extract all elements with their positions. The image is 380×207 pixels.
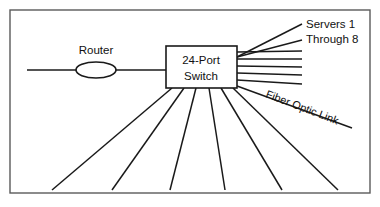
switch-label-line2: Switch [184, 70, 218, 82]
servers-label-line2: Through 8 [306, 33, 358, 45]
server-link-3 [237, 51, 302, 52]
network-diagram: Router 24-Port Switch Servers 1 Through … [0, 0, 380, 207]
switch-label-line1: 24-Port [182, 54, 221, 66]
router-label: Router [79, 44, 114, 56]
diagram-canvas: Router 24-Port Switch Servers 1 Through … [0, 0, 380, 207]
router-node [76, 62, 116, 78]
server-link-5 [237, 66, 302, 67]
servers-label-line1: Servers 1 [306, 18, 355, 30]
